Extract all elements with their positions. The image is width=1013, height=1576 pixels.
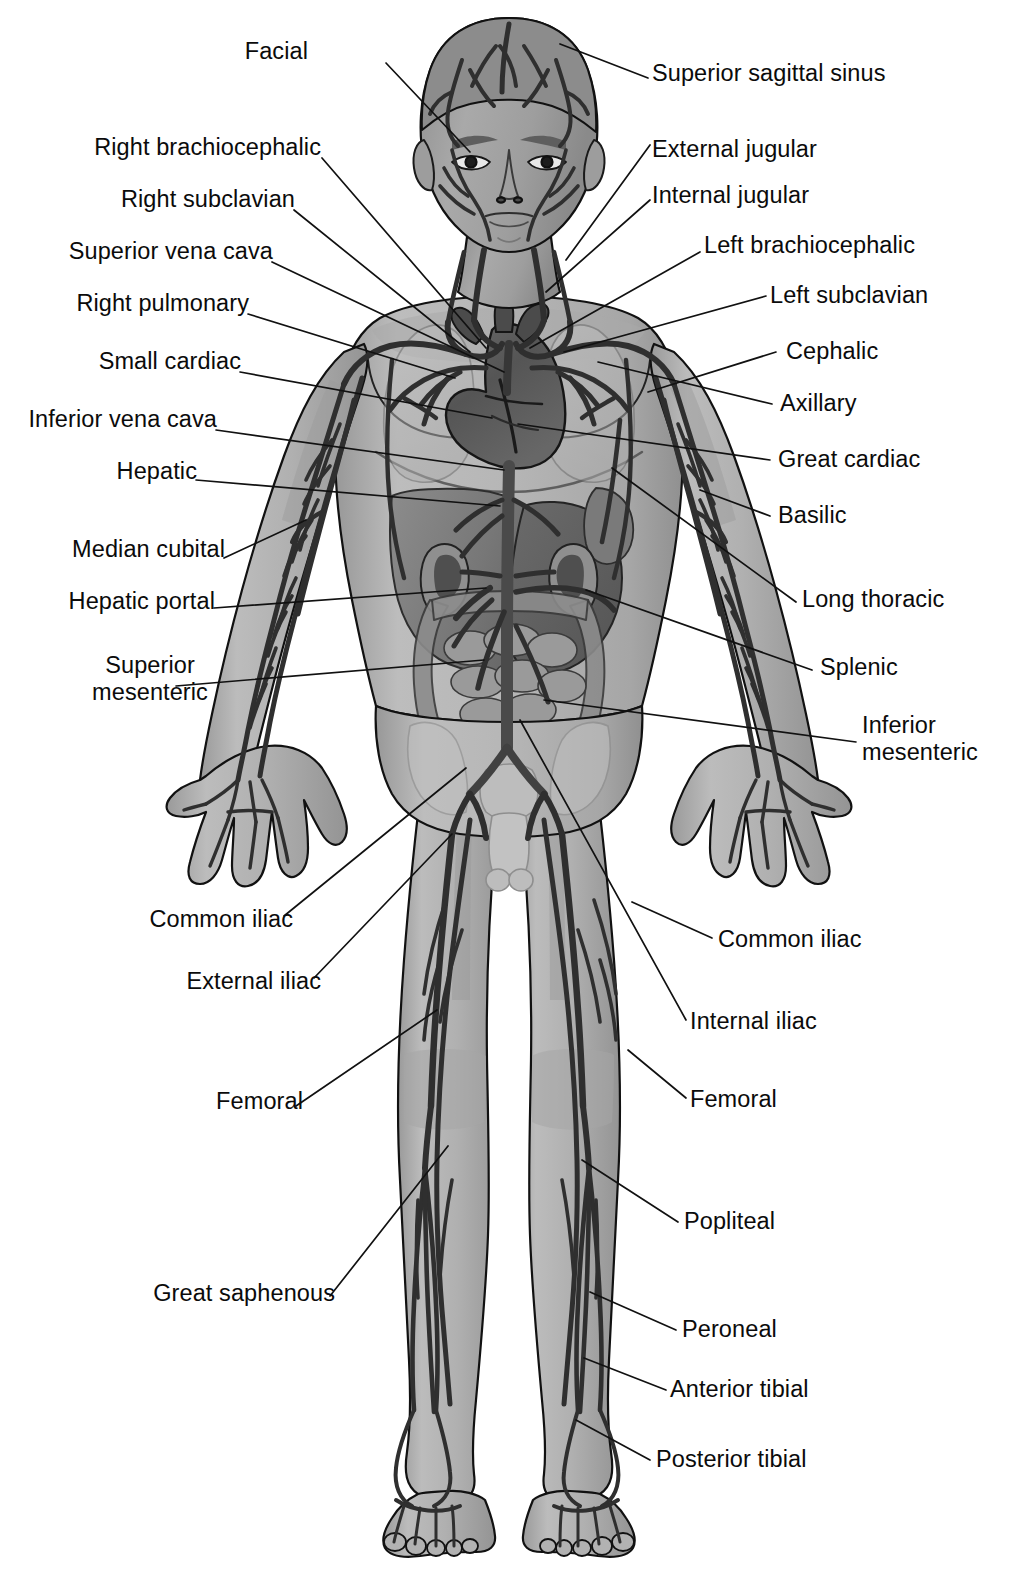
label-external-jugular: External jugular [652, 136, 817, 163]
leader-internal-jugular [546, 200, 650, 292]
label-external-iliac: External iliac [186, 968, 321, 995]
label-great-cardiac: Great cardiac [778, 446, 920, 473]
leader-cephalic [648, 352, 776, 392]
leader-right-subclavian [294, 210, 470, 352]
label-basilic: Basilic [778, 502, 847, 529]
leader-inferior-vena-cava [216, 430, 504, 470]
label-facial: Facial [245, 38, 308, 65]
leader-anterior-tibial [584, 1358, 666, 1390]
label-right-pulmonary: Right pulmonary [76, 290, 249, 317]
label-median-cubital: Median cubital [72, 536, 225, 563]
label-hepatic: Hepatic [117, 458, 197, 485]
leader-superior-vena-cava [272, 262, 504, 372]
leader-splenic [586, 590, 812, 670]
leader-internal-iliac [520, 720, 686, 1020]
leader-superior-sagittal-sinus [560, 44, 648, 78]
label-anterior-tibial: Anterior tibial [670, 1376, 809, 1403]
label-splenic: Splenic [820, 654, 898, 681]
label-right-brachiocephalic: Right brachiocephalic [94, 134, 321, 161]
leader-external-jugular [566, 145, 650, 260]
leader-hepatic-portal [214, 588, 486, 608]
label-popliteal: Popliteal [684, 1208, 775, 1235]
label-superior-vena-cava: Superior vena cava [69, 238, 273, 265]
leader-popliteal [582, 1160, 678, 1222]
label-great-saphenous: Great saphenous [153, 1280, 335, 1307]
label-left-brachiocephalic: Left brachiocephalic [704, 232, 915, 259]
leader-femoral-left [296, 1010, 437, 1106]
leader-left-brachiocephalic [530, 252, 700, 348]
leader-external-iliac [314, 834, 452, 978]
leader-left-subclavian [564, 296, 766, 352]
label-peroneal: Peroneal [682, 1316, 777, 1343]
label-common-iliac-right: Common iliac [718, 926, 862, 953]
leader-great-saphenous [330, 1146, 448, 1296]
label-common-iliac-left: Common iliac [149, 906, 293, 933]
label-inferior-vena-cava: Inferior vena cava [28, 406, 217, 433]
leader-common-iliac-right [632, 902, 712, 938]
diagram-canvas: Facial Right brachiocephalic Right subcl… [0, 0, 1013, 1576]
label-femoral-left: Femoral [216, 1088, 303, 1115]
label-internal-jugular: Internal jugular [652, 182, 809, 209]
leader-median-cubital [224, 520, 306, 558]
leader-facial [386, 63, 470, 152]
label-posterior-tibial: Posterior tibial [656, 1446, 807, 1473]
leader-basilic [700, 490, 770, 516]
leader-long-thoracic [612, 468, 796, 602]
leader-small-cardiac [240, 372, 492, 418]
leader-inferior-mesenteric [544, 700, 856, 742]
label-internal-iliac: Internal iliac [690, 1008, 817, 1035]
label-cephalic: Cephalic [786, 338, 878, 365]
label-right-subclavian: Right subclavian [121, 186, 295, 213]
leader-axillary [598, 362, 772, 404]
label-small-cardiac: Small cardiac [99, 348, 241, 375]
leader-posterior-tibial [576, 1420, 650, 1460]
label-left-subclavian: Left subclavian [770, 282, 928, 309]
leader-common-iliac-left [284, 768, 466, 916]
leader-right-pulmonary [248, 314, 455, 378]
label-long-thoracic: Long thoracic [802, 586, 944, 613]
leader-femoral-right [628, 1050, 686, 1098]
leader-hepatic [196, 480, 500, 506]
label-hepatic-portal: Hepatic portal [69, 588, 215, 615]
label-superior-mesenteric: Superiormesenteric [60, 652, 240, 706]
label-inferior-mesenteric: Inferiormesenteric [862, 712, 978, 766]
leader-great-cardiac [518, 424, 770, 460]
leader-peroneal [590, 1292, 676, 1330]
label-superior-sagittal-sinus: Superior sagittal sinus [652, 60, 886, 87]
label-femoral-right: Femoral [690, 1086, 777, 1113]
label-axillary: Axillary [780, 390, 857, 417]
